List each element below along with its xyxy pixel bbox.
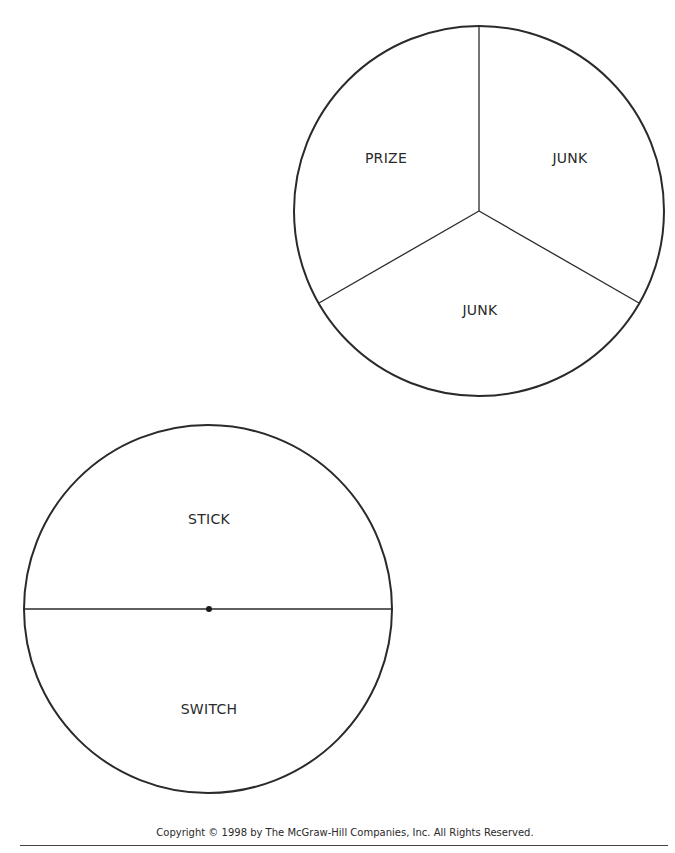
section-label-junk-bottom: JUNK	[461, 302, 498, 318]
section-label-stick: STICK	[188, 511, 231, 527]
section-label-junk-right: JUNK	[551, 150, 588, 166]
divider-line-lower-left	[319, 211, 479, 303]
copyright-notice: Copyright © 1998 by The McGraw-Hill Comp…	[0, 827, 675, 838]
spinner-diagram: PRIZE JUNK JUNK STICK SWITCH	[0, 0, 675, 853]
pivot-dot-icon	[206, 606, 212, 612]
section-label-switch: SWITCH	[181, 701, 238, 717]
worksheet-page: PRIZE JUNK JUNK STICK SWITCH Copyright ©…	[0, 0, 675, 853]
footer-divider	[20, 845, 668, 846]
section-label-prize: PRIZE	[365, 150, 407, 166]
spinner-two-sections: STICK SWITCH	[24, 425, 392, 793]
spinner-three-sections: PRIZE JUNK JUNK	[294, 26, 664, 396]
divider-line-lower-right	[479, 211, 639, 303]
